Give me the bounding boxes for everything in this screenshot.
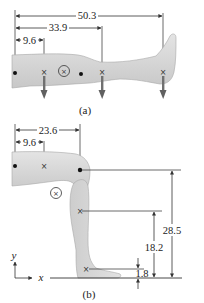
dim-label-28-5: 28.5	[163, 225, 181, 236]
dim-label-1-8: 1.8	[135, 268, 148, 279]
dim-label-18-2: 18.2	[145, 242, 163, 253]
leg-diagram: 50.3 33.9 9.6 × × × × (a)	[0, 0, 204, 303]
thigh-cm-x-icon: ×	[41, 68, 48, 77]
shank-cm-x-icon-b: ×	[77, 207, 84, 216]
coordinate-axes: y x	[11, 249, 44, 283]
dim-label-9-6: 9.6	[23, 35, 36, 46]
body-cm-x-icon: ×	[61, 68, 67, 76]
knee-joint-dot	[79, 72, 83, 76]
caption-b: (b)	[83, 288, 96, 301]
foot-cm-x-icon-b: ×	[83, 265, 90, 274]
dim-label-33-9: 33.9	[49, 22, 67, 33]
body-cm-x-icon-b: ×	[53, 190, 59, 198]
thigh-cm-x-icon-b: ×	[41, 162, 48, 171]
hip-joint-dot	[13, 71, 17, 75]
hip-joint-dot-b	[13, 164, 17, 168]
x-axis-label: x	[38, 271, 44, 283]
dim-label-9-6-b: 9.6	[23, 137, 36, 148]
caption-a: (a)	[79, 104, 92, 117]
figure-b: 23.6 9.6 × × × × 28.5 18.2 1.8 y	[11, 124, 184, 301]
dim-label-23-6: 23.6	[39, 125, 57, 136]
foot-cm-x-icon: ×	[160, 68, 167, 77]
figure-a: 50.3 33.9 9.6 × × × × (a)	[12, 9, 176, 117]
shank-foot-shape	[70, 180, 121, 278]
y-axis-label: y	[11, 249, 17, 261]
knee-joint-dot-b	[78, 168, 82, 172]
dim-label-50-3: 50.3	[78, 10, 96, 21]
shank-cm-x-icon: ×	[99, 68, 106, 77]
